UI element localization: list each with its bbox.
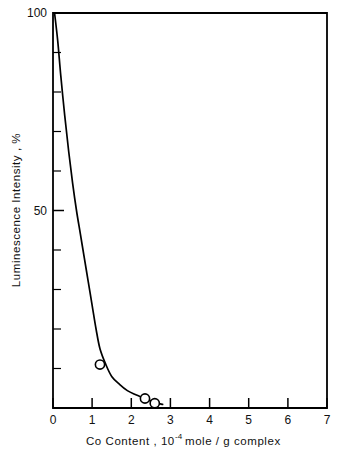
x-tick-label-3: 3: [167, 413, 174, 427]
x-axis-title: Co Content , 10 -4 mole / g complex: [86, 432, 281, 447]
x-tick-labels: 0 1 2 3 4 5 6 7: [50, 413, 331, 427]
x-axis-title-exponent: -4: [175, 432, 183, 441]
x-tick-label-1: 1: [89, 413, 96, 427]
x-tick-label-7: 7: [324, 413, 331, 427]
chart-figure: 0 1 2 3 4 5 6 7 100 50 Luminescence Inte…: [0, 0, 338, 457]
data-point-marker: [150, 399, 159, 408]
x-tick-label-2: 2: [128, 413, 135, 427]
x-tick-label-0: 0: [50, 413, 57, 427]
data-point-marker: [95, 360, 104, 369]
decay-curve: [55, 13, 163, 404]
y-tick-labels: 100 50: [27, 6, 47, 218]
x-tick-label-5: 5: [245, 413, 252, 427]
plot-frame: [53, 13, 327, 408]
data-series-group: [55, 13, 163, 408]
y-tick-label-100: 100: [27, 6, 47, 20]
x-axis-title-post: mole / g complex: [185, 435, 281, 447]
x-tick-label-4: 4: [206, 413, 213, 427]
x-tick-label-6: 6: [285, 413, 292, 427]
x-axis-title-pre: Co Content , 10: [86, 435, 175, 447]
x-axis-ticks: [53, 398, 327, 408]
luminescence-vs-cobalt-content-chart: 0 1 2 3 4 5 6 7 100 50 Luminescence Inte…: [0, 0, 338, 457]
data-point-markers: [95, 360, 159, 408]
data-point-marker: [140, 394, 149, 403]
axes-frame-rect: [53, 13, 327, 408]
y-axis-title: Luminescence Intensity , %: [10, 133, 22, 287]
y-tick-label-50: 50: [34, 204, 48, 218]
y-axis-ticks: [53, 13, 64, 369]
